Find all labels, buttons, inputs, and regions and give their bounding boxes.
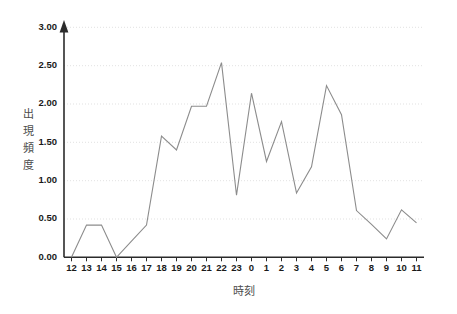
x-tick-label: 11 bbox=[411, 262, 422, 273]
x-tick-label: 14 bbox=[96, 262, 107, 273]
y-tick-label: 1.00 bbox=[39, 174, 58, 185]
y-axis-title-char: 度 bbox=[23, 158, 34, 171]
x-tick-label: 0 bbox=[249, 262, 254, 273]
x-tick-label: 12 bbox=[66, 262, 77, 273]
x-tick-label: 21 bbox=[201, 262, 212, 273]
y-tick-label: 2.50 bbox=[39, 59, 58, 70]
x-axis-tick-labels: 12131415161718192021222301234567891011 bbox=[66, 262, 422, 273]
frequency-line-series bbox=[72, 63, 417, 258]
x-tick-label: 9 bbox=[384, 262, 389, 273]
x-axis-title: 時刻 bbox=[233, 284, 255, 297]
x-tick-label: 22 bbox=[216, 262, 227, 273]
x-tick-label: 15 bbox=[111, 262, 122, 273]
x-tick-label: 8 bbox=[369, 262, 374, 273]
line-chart-figure: 0.000.501.001.502.002.503.00 12131415161… bbox=[0, 0, 457, 314]
y-tick-label: 1.50 bbox=[39, 136, 58, 147]
y-axis-arrow-icon bbox=[60, 20, 69, 33]
y-axis-tick-labels: 0.000.501.001.502.002.503.00 bbox=[39, 21, 58, 262]
x-axis-group bbox=[64, 257, 424, 261]
x-tick-label: 4 bbox=[309, 262, 315, 273]
x-tick-label: 18 bbox=[156, 262, 167, 273]
x-tick-label: 6 bbox=[339, 262, 344, 273]
y-tick-label: 0.00 bbox=[39, 251, 58, 262]
y-axis-title-char: 現 bbox=[23, 125, 34, 137]
x-tick-label: 7 bbox=[354, 262, 359, 273]
y-tick-label: 2.00 bbox=[39, 97, 58, 108]
x-tick-label: 10 bbox=[396, 262, 407, 273]
chart-svg: 0.000.501.001.502.002.503.00 12131415161… bbox=[0, 0, 457, 314]
x-tick-label: 2 bbox=[279, 262, 284, 273]
gridlines-group bbox=[64, 27, 424, 219]
y-axis-title-char: 頻 bbox=[23, 141, 34, 154]
x-tick-label: 13 bbox=[81, 262, 92, 273]
y-tick-label: 0.50 bbox=[39, 212, 58, 223]
x-tick-label: 20 bbox=[186, 262, 197, 273]
x-tick-label: 17 bbox=[141, 262, 152, 273]
x-tick-label: 16 bbox=[126, 262, 137, 273]
x-tick-label: 5 bbox=[324, 262, 330, 273]
y-axis-title: 出現頻度 bbox=[23, 107, 34, 171]
x-tick-label: 23 bbox=[231, 262, 242, 273]
x-tick-label: 19 bbox=[171, 262, 182, 273]
x-tick-label: 3 bbox=[294, 262, 299, 273]
x-tick-label: 1 bbox=[264, 262, 270, 273]
y-tick-label: 3.00 bbox=[39, 21, 58, 32]
y-axis-group bbox=[60, 20, 69, 257]
y-axis-title-char: 出 bbox=[23, 107, 34, 120]
